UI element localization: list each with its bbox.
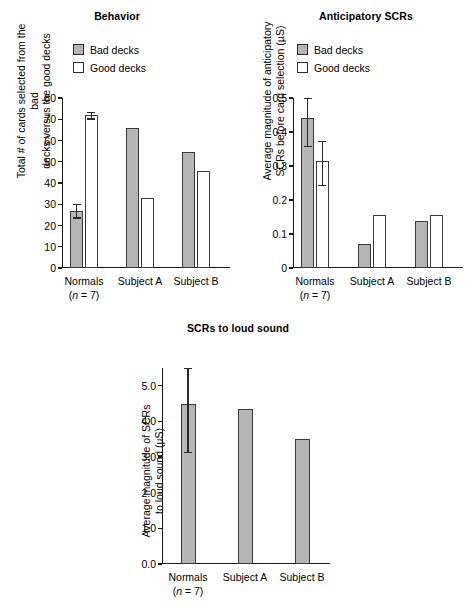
- panel-scrs-loud-sound: SCRs to loud sound Average magnitude of …: [105, 310, 405, 612]
- x-axis-label-normals: Normals: [64, 275, 103, 287]
- panel-behavior-plot: 01020304050607080Normals(n = 7)Subject A…: [62, 98, 230, 268]
- y-tick-label: 5.0: [141, 380, 156, 392]
- legend-label-bad: Bad decks: [90, 44, 139, 56]
- y-tick: [58, 97, 62, 98]
- y-tick: [58, 140, 62, 141]
- legend-label-good: Good decks: [90, 62, 146, 74]
- y-tick: [289, 165, 293, 166]
- legend-swatch-bad-icon: [297, 44, 308, 55]
- error-cap-top: [318, 141, 326, 142]
- bar-scr-subject-b: [295, 439, 310, 564]
- x-axis-label-subject-a: Subject A: [223, 571, 267, 583]
- error-cap-bottom: [87, 118, 95, 119]
- x-axis-sublabel-n: (n = 7): [69, 289, 100, 301]
- x-axis-label-normals: Normals: [295, 275, 334, 287]
- y-tick: [289, 97, 293, 98]
- y-tick-label: 0.4: [272, 126, 287, 138]
- panel-loud-title: SCRs to loud sound: [153, 322, 323, 334]
- panel-anticipatory-legend: Bad decks Good decks: [297, 42, 370, 78]
- y-tick-label: 0.1: [272, 228, 287, 240]
- bar-good-decks-normals: [85, 115, 98, 268]
- panel-anticipatory-title: Anticipatory SCRs: [286, 10, 446, 22]
- legend-item-bad-decks: Bad decks: [297, 42, 370, 57]
- y-tick: [58, 204, 62, 205]
- y-tick-label: 1.0: [141, 522, 156, 534]
- y-tick-label: 0.3: [272, 160, 287, 172]
- y-tick: [158, 563, 162, 564]
- y-tick-label: 60: [44, 135, 56, 147]
- error-bar: [76, 204, 77, 218]
- legend-item-good-decks: Good decks: [297, 60, 370, 75]
- panel-behavior-legend: Bad decks Good decks: [73, 42, 146, 78]
- error-cap-bottom: [318, 185, 326, 186]
- bar-good-decks-subject-a: [373, 215, 386, 268]
- y-tick-label: 20: [44, 220, 56, 232]
- bar-bad-decks-subject-b: [182, 152, 195, 268]
- legend-item-bad-decks: Bad decks: [73, 42, 146, 57]
- error-bar: [307, 98, 308, 146]
- x-axis-label-normals: Normals: [168, 571, 207, 583]
- y-tick-label: 80: [44, 92, 56, 104]
- bar-bad-decks-normals: [70, 211, 83, 268]
- x-axis-label-subject-b: Subject B: [280, 571, 325, 583]
- y-tick: [58, 225, 62, 226]
- x-axis-label-subject-a: Subject A: [350, 275, 394, 287]
- y-tick: [158, 492, 162, 493]
- y-tick: [289, 233, 293, 234]
- x-axis-label-subject-b: Subject B: [407, 275, 452, 287]
- bar-good-decks-subject-a: [141, 198, 154, 268]
- y-tick: [158, 456, 162, 457]
- legend-swatch-good-icon: [73, 62, 84, 73]
- error-cap-top: [304, 98, 312, 99]
- legend-swatch-good-icon: [297, 62, 308, 73]
- y-axis-line: [162, 368, 163, 564]
- bar-good-decks-subject-b: [430, 215, 443, 268]
- y-tick-label: 0: [50, 262, 56, 274]
- error-bar: [187, 368, 188, 452]
- error-cap-top: [73, 204, 81, 205]
- y-axis-line: [293, 98, 294, 268]
- legend-label-good: Good decks: [314, 62, 370, 74]
- y-tick: [158, 421, 162, 422]
- legend-label-bad: Bad decks: [314, 44, 363, 56]
- panel-anticipatory-scrs: Anticipatory SCRs Bad decks Good decks A…: [238, 0, 474, 310]
- x-axis-sublabel-n: (n = 7): [300, 289, 331, 301]
- x-axis-sublabel-n: (n = 7): [173, 585, 204, 597]
- x-axis-label-subject-a: Subject A: [118, 275, 162, 287]
- y-tick-label: 10: [44, 241, 56, 253]
- y-tick: [289, 131, 293, 132]
- bar-bad-decks-subject-a: [358, 244, 371, 268]
- y-tick: [289, 199, 293, 200]
- y-tick: [58, 161, 62, 162]
- legend-item-good-decks: Good decks: [73, 60, 146, 75]
- y-tick: [58, 119, 62, 120]
- y-tick-label: 0.2: [272, 194, 287, 206]
- error-cap-top: [87, 112, 95, 113]
- bar-good-decks-subject-b: [197, 171, 210, 268]
- y-tick-label: 0.5: [272, 92, 287, 104]
- y-tick-label: 4.0: [141, 415, 156, 427]
- bar-scr-subject-a: [238, 409, 253, 564]
- error-cap-bottom: [304, 146, 312, 147]
- bar-bad-decks-subject-a: [126, 128, 139, 268]
- y-tick-label: 40: [44, 177, 56, 189]
- y-tick: [158, 385, 162, 386]
- y-tick: [158, 528, 162, 529]
- y-tick-label: 2.0: [141, 487, 156, 499]
- x-axis-label-subject-b: Subject B: [174, 275, 219, 287]
- y-tick-label: 50: [44, 156, 56, 168]
- bar-bad-decks-subject-b: [415, 221, 428, 268]
- y-tick: [58, 246, 62, 247]
- y-tick: [58, 182, 62, 183]
- panel-loud-plot: 0.01.02.03.04.05.0Normals(n = 7)Subject …: [162, 368, 330, 564]
- y-tick-label: 30: [44, 198, 56, 210]
- error-bar: [322, 141, 323, 185]
- panel-behavior-title: Behavior: [62, 10, 172, 22]
- y-tick-label: 70: [44, 113, 56, 125]
- y-tick: [289, 267, 293, 268]
- error-cap-bottom: [73, 217, 81, 218]
- error-cap-top: [184, 368, 192, 369]
- y-tick: [58, 267, 62, 268]
- panel-behavior: Behavior Bad decks Good decks Total # of…: [0, 0, 236, 310]
- y-tick-label: 0.0: [141, 558, 156, 570]
